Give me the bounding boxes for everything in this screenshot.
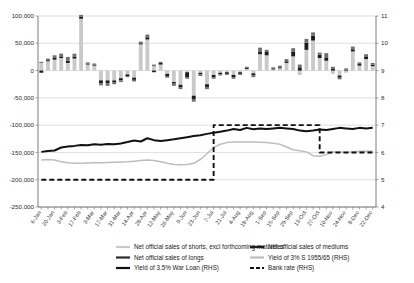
bar-segment <box>39 71 43 73</box>
bar-segment <box>331 68 335 70</box>
bar-segment <box>46 60 50 61</box>
bar-segment <box>152 65 156 67</box>
x-axis-tick-label: 6-Jan <box>29 210 42 225</box>
legend: Net official sales of shorts, excl forth… <box>116 243 349 272</box>
bar-segment <box>179 71 183 85</box>
bar-segment <box>212 77 216 79</box>
bar-segment <box>66 57 70 61</box>
bars-layer <box>39 15 374 102</box>
bar-segment <box>198 71 202 73</box>
bar-segment <box>285 61 289 63</box>
y-axis-tick-label: -50,000 <box>13 94 35 101</box>
bar-segment <box>79 17 83 19</box>
bar-segment <box>132 71 136 78</box>
bar-segment <box>92 65 96 66</box>
bar-segment <box>185 77 189 79</box>
bar-segment <box>318 53 322 55</box>
bar-segment <box>298 65 302 68</box>
y2-axis-tick-label: 7 <box>381 121 385 128</box>
bar-segment <box>304 50 308 71</box>
bar-segment <box>66 63 70 71</box>
bar-segment <box>364 56 368 59</box>
y-axis-tick-label: -250,000 <box>10 203 35 210</box>
bar-segment <box>291 51 295 56</box>
bar-segment <box>132 78 136 80</box>
bar-segment <box>251 75 255 77</box>
bar-segment <box>232 75 236 77</box>
bar-segment <box>73 54 77 57</box>
bar-segment <box>358 66 362 71</box>
bar-segment <box>179 87 183 89</box>
bar-segment <box>198 74 202 76</box>
bar-segment <box>324 53 328 58</box>
bar-segment <box>218 71 222 73</box>
bar-segment <box>311 32 315 35</box>
bar-segment <box>172 71 176 82</box>
y2-axis-tick-label: 9 <box>381 67 385 74</box>
y2-axis-tick-label: 8 <box>381 94 385 101</box>
legend-label: Yield of 3.5% War Loan (RHS) <box>134 264 219 272</box>
bar-segment <box>324 61 328 71</box>
bar-segment <box>265 52 269 55</box>
bar-segment <box>145 39 149 70</box>
bar-segment <box>311 41 315 71</box>
bar-segment <box>119 80 123 82</box>
bar-segment <box>298 67 302 70</box>
bar-segment <box>245 68 249 69</box>
bar-segment <box>311 36 315 41</box>
bar-segment <box>139 42 143 44</box>
legend-label: Net official sales of longs <box>134 254 204 262</box>
bar-segment <box>99 71 103 81</box>
bar-segment <box>159 62 163 63</box>
bar-segment <box>225 71 229 73</box>
bar-segment <box>331 67 335 69</box>
x-axis-tick-label: 9-Jun <box>175 210 188 225</box>
x-axis-tick-label: 24-Nov <box>332 209 347 227</box>
bar-segment <box>278 67 282 68</box>
bar-segment <box>331 71 335 74</box>
bar-segment <box>285 59 289 61</box>
bar-segment <box>198 73 202 75</box>
bar-segment <box>338 78 342 80</box>
bar-segment <box>258 54 262 70</box>
bar-segment <box>192 71 196 96</box>
bar-segment <box>39 63 43 71</box>
x-axis: 6-Jan20-Jan3-Feb17-Feb3-Mar17-Mar31-Mar1… <box>29 207 373 228</box>
legend-item: Net official sales of longs <box>116 254 204 262</box>
bar-segment <box>251 73 255 75</box>
bar-segment <box>112 82 116 84</box>
bar-segment <box>344 68 348 69</box>
bar-segment <box>358 62 362 64</box>
x-axis-tick-label: 31-Mar <box>107 210 122 228</box>
bar-segment <box>53 60 57 71</box>
bar-segment <box>271 67 275 68</box>
bar-segment <box>119 78 123 80</box>
right-axis: 1110987654 <box>376 12 388 210</box>
bar-segment <box>165 76 169 78</box>
bar-segment <box>92 63 96 64</box>
bar-segment <box>106 80 110 83</box>
bar-segment <box>73 57 77 59</box>
bar-segment <box>371 65 375 67</box>
bar-segment <box>271 69 275 70</box>
bar-segment <box>351 49 355 51</box>
legend-item: Yield of 3% S 1955/65 (RHS) <box>250 254 349 262</box>
bar-segment <box>86 62 90 63</box>
bar-segment <box>119 71 123 79</box>
bar-segment <box>126 74 130 76</box>
x-axis-tick-label: 21-Jul <box>214 210 228 226</box>
bar-segment <box>218 73 222 75</box>
bar-segment <box>265 55 269 70</box>
bar-segment <box>258 48 262 52</box>
bar-segment <box>145 37 149 39</box>
bar-segment <box>99 80 103 83</box>
x-axis-tick-label: 23-Jun <box>186 210 201 227</box>
bar-segment <box>39 62 43 63</box>
bar-segment <box>251 71 255 74</box>
bar-segment <box>139 43 143 44</box>
bar-segment <box>192 99 196 102</box>
bar-segment <box>218 74 222 75</box>
bar-segment <box>159 63 163 65</box>
bar-segment <box>205 87 209 89</box>
bar-segment <box>351 51 355 70</box>
